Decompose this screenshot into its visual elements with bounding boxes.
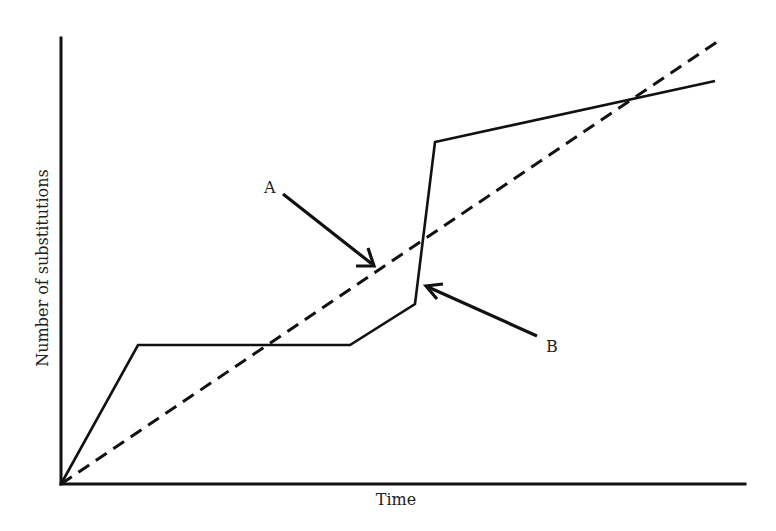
annotation-b-label: B (546, 337, 558, 356)
chart: A B Time Number of substitutions (0, 0, 776, 531)
series-a-line (61, 40, 720, 484)
annotation-a-arrow (283, 194, 374, 266)
x-axis-title: Time (376, 490, 416, 509)
annotation-b-arrow (426, 284, 537, 336)
annotation-a-label: A (263, 178, 276, 197)
series-b-line (61, 81, 715, 484)
y-axis-title: Number of substitutions (33, 169, 52, 367)
